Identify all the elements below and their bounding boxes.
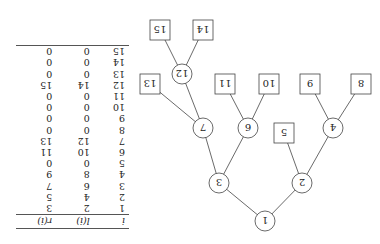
cell-right-child: 0 <box>16 113 56 124</box>
cell-right-child: 0 <box>16 102 56 113</box>
cell-right-child: 11 <box>16 147 56 158</box>
cell-left-child: 14 <box>56 80 94 91</box>
cell-index: 12 <box>94 80 129 91</box>
cell-right-child: 9 <box>16 169 56 180</box>
cell-left-child: 6 <box>56 180 94 191</box>
cell-index: 8 <box>94 124 129 135</box>
child-index-table: i l(i) r(i) 1232453674895006101171213800… <box>16 45 129 229</box>
cell-index: 11 <box>94 91 129 102</box>
table-row: 367 <box>16 180 129 191</box>
cell-left-child: 10 <box>56 147 94 158</box>
cell-right-child: 0 <box>16 68 56 79</box>
cell-left-child: 4 <box>56 192 94 203</box>
cell-left-child: 0 <box>56 57 94 68</box>
cell-index: 7 <box>94 136 129 147</box>
cell-left-child: 2 <box>56 203 94 215</box>
table-row: 121415 <box>16 80 129 91</box>
svg-text:12: 12 <box>176 68 189 79</box>
binary-tree-diagram: 1 2 3 4 5 6 7 8 9 10 11 12 13 14 15 <box>130 0 380 244</box>
cell-left-child: 0 <box>56 102 94 113</box>
figure: 1 2 3 4 5 6 7 8 9 10 11 12 13 14 15 i l(… <box>0 0 380 244</box>
col-header-right: r(i) <box>16 215 56 229</box>
col-header-i: i <box>94 215 129 229</box>
cell-right-child: 15 <box>16 80 56 91</box>
svg-text:3: 3 <box>216 177 222 188</box>
svg-text:5: 5 <box>281 127 287 138</box>
cell-right-child: 13 <box>16 136 56 147</box>
svg-text:13: 13 <box>144 78 157 89</box>
table-row: 245 <box>16 192 129 203</box>
cell-left-child: 0 <box>56 91 94 102</box>
cell-left-child: 0 <box>56 113 94 124</box>
svg-text:15: 15 <box>154 24 167 35</box>
rotated-figure: 1 2 3 4 5 6 7 8 9 10 11 12 13 14 15 i l(… <box>0 0 380 244</box>
cell-right-child: 0 <box>16 45 56 57</box>
cell-right-child: 7 <box>16 180 56 191</box>
table-row: 489 <box>16 169 129 180</box>
table-row: 1300 <box>16 68 129 79</box>
svg-text:11: 11 <box>219 78 232 89</box>
table-row: 900 <box>16 113 129 124</box>
svg-text:2: 2 <box>299 177 305 188</box>
cell-left-child: 12 <box>56 136 94 147</box>
cell-index: 5 <box>94 158 129 169</box>
svg-text:4: 4 <box>330 122 336 133</box>
svg-text:8: 8 <box>358 78 364 89</box>
cell-index: 1 <box>94 203 129 215</box>
svg-text:14: 14 <box>197 24 210 35</box>
cell-left-child: 0 <box>56 124 94 135</box>
cell-left-child: 8 <box>56 169 94 180</box>
table-row: 123 <box>16 203 129 215</box>
cell-right-child: 3 <box>16 203 56 215</box>
cell-right-child: 0 <box>16 57 56 68</box>
table-row: 1100 <box>16 91 129 102</box>
cell-index: 9 <box>94 113 129 124</box>
svg-text:7: 7 <box>200 122 206 133</box>
svg-text:9: 9 <box>307 78 313 89</box>
cell-left-child: 0 <box>56 68 94 79</box>
col-header-left: l(i) <box>56 215 94 229</box>
cell-index: 2 <box>94 192 129 203</box>
svg-text:1: 1 <box>262 215 268 226</box>
table-header-row: i l(i) r(i) <box>16 215 129 229</box>
cell-index: 3 <box>94 180 129 191</box>
svg-text:6: 6 <box>245 122 251 133</box>
table-body: 1232453674895006101171213800900100011001… <box>16 45 129 214</box>
cell-index: 14 <box>94 57 129 68</box>
cell-index: 15 <box>94 45 129 57</box>
cell-left-child: 0 <box>56 158 94 169</box>
cell-right-child: 5 <box>16 192 56 203</box>
table-row: 71213 <box>16 136 129 147</box>
cell-index: 4 <box>94 169 129 180</box>
cell-right-child: 0 <box>16 124 56 135</box>
table-row: 61011 <box>16 147 129 158</box>
svg-text:10: 10 <box>263 78 276 89</box>
cell-right-child: 0 <box>16 158 56 169</box>
table-row: 1400 <box>16 57 129 68</box>
cell-index: 10 <box>94 102 129 113</box>
cell-left-child: 0 <box>56 45 94 57</box>
cell-right-child: 0 <box>16 91 56 102</box>
cell-index: 13 <box>94 68 129 79</box>
table-row: 500 <box>16 158 129 169</box>
table-row: 800 <box>16 124 129 135</box>
table-row: 1000 <box>16 102 129 113</box>
cell-index: 6 <box>94 147 129 158</box>
table-row: 1500 <box>16 45 129 57</box>
